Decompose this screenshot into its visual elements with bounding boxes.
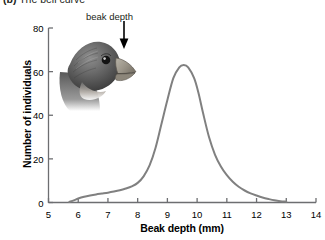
x-axis-tick-label: 12 (251, 209, 262, 220)
annotation-label: beak depth (86, 11, 133, 22)
y-axis-tick-label: 80 (33, 23, 44, 34)
x-axis-tick-label: 7 (105, 209, 110, 220)
y-axis-ticks (49, 28, 54, 203)
plot-area: Number of individuals Beak depth (mm) 02… (0, 0, 325, 240)
x-axis-title: Beak depth (mm) (48, 222, 316, 234)
x-axis-tick-label: 11 (222, 209, 232, 220)
x-axis-tick-label: 6 (76, 209, 81, 220)
x-axis-tick-label: 13 (281, 209, 292, 220)
y-axis-title: Number of individuals (21, 34, 33, 194)
x-axis-tick-label: 9 (165, 209, 170, 220)
y-axis-tick-label: 40 (33, 110, 44, 121)
y-axis-tick-label: 20 (33, 153, 44, 164)
finch-head-illustration (56, 34, 140, 112)
chart-canvas (0, 0, 325, 240)
x-axis-tick-label: 5 (46, 209, 51, 220)
bell-curve-figure: (b) The bell curve (0, 0, 325, 240)
x-axis-tick-label: 10 (192, 209, 203, 220)
x-axis-tick-label: 14 (311, 209, 322, 220)
x-axis-tick-label: 8 (135, 209, 140, 220)
y-axis-tick-label: 60 (33, 66, 44, 77)
y-axis-tick-label: 0 (38, 197, 43, 208)
